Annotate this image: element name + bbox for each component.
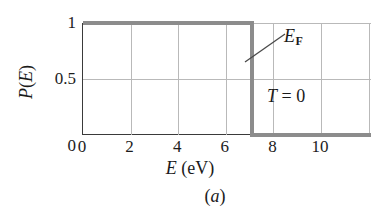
curve-segment-occupied [83, 21, 252, 25]
temperature-symbol: T [267, 86, 277, 106]
x-tick-label-2: 2 [115, 138, 145, 155]
y-axis-label: P(E) [16, 42, 36, 122]
y-axis-label-paren-close: ) [16, 65, 36, 71]
caption-paren-close: ) [220, 186, 226, 206]
x-axis-label-var: E [166, 158, 177, 178]
y-axis-label-var: P [16, 88, 36, 99]
fermi-energy-subscript: F [296, 34, 303, 48]
temperature-value: = 0 [277, 86, 305, 106]
y-tick-label-1: 1 [36, 14, 76, 31]
caption-letter: a [211, 186, 220, 206]
figure-caption: (a) [0, 186, 380, 206]
y-axis-label-paren-open: ( [16, 82, 36, 88]
y-axis-label-arg: E [16, 71, 36, 82]
fermi-energy-label: EF [284, 26, 302, 48]
fermi-energy-symbol: E [284, 26, 295, 46]
curve-segment-fermi-step [250, 21, 254, 137]
temperature-label: T = 0 [267, 86, 305, 106]
x-tick-label-6: 6 [210, 138, 240, 155]
x-tick-label-0: 0 [67, 138, 97, 155]
x-axis-label: E (eV) [0, 158, 380, 178]
gridline-horizontal-0.5 [83, 79, 371, 80]
fermi-dirac-figure: 1 0.5 0 P(E) EF T = 0 0 2 4 6 8 10 [0, 0, 380, 217]
x-tick-label-4: 4 [162, 138, 192, 155]
plot-area [82, 23, 370, 135]
x-tick-label-8: 8 [257, 138, 287, 155]
x-tick-label-10: 10 [305, 138, 335, 155]
y-tick-label-0.5: 0.5 [36, 70, 76, 87]
x-axis-label-unit: (eV) [181, 158, 214, 178]
